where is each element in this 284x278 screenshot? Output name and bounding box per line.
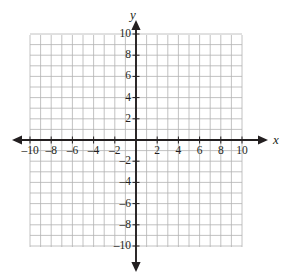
x-tick-label: 4 [176, 145, 182, 157]
x-axis-right-arrow-icon [258, 135, 268, 144]
y-tick-label: –8 [120, 219, 132, 231]
x-tick-label: 6 [197, 145, 203, 157]
y-tick-label: 6 [125, 71, 131, 83]
y-tick-label: 2 [125, 113, 131, 125]
coordinate-grid-svg [0, 0, 284, 278]
y-tick-label: 4 [125, 92, 131, 104]
x-tick-label: 8 [218, 145, 224, 157]
y-tick-label: 10 [120, 28, 132, 40]
y-tick-label: –4 [120, 177, 132, 189]
coordinate-plane-figure: –10–8–6–4–2246810 –10–8–6–4–2246810 x y [0, 0, 284, 278]
y-axis-label: y [130, 8, 136, 21]
x-axis-label: x [273, 133, 279, 146]
y-tick-label: –6 [120, 198, 132, 210]
x-tick-label: 2 [154, 145, 160, 157]
x-tick-label: –8 [45, 145, 57, 157]
y-tick-label: –2 [120, 155, 132, 167]
x-tick-label: –10 [21, 145, 38, 157]
y-tick-label: 8 [125, 49, 131, 61]
x-tick-label: 10 [236, 145, 248, 157]
y-tick-label: –10 [114, 240, 131, 252]
x-tick-label: –4 [88, 145, 100, 157]
y-axis-down-arrow-icon [131, 262, 140, 272]
x-tick-label: –6 [67, 145, 79, 157]
